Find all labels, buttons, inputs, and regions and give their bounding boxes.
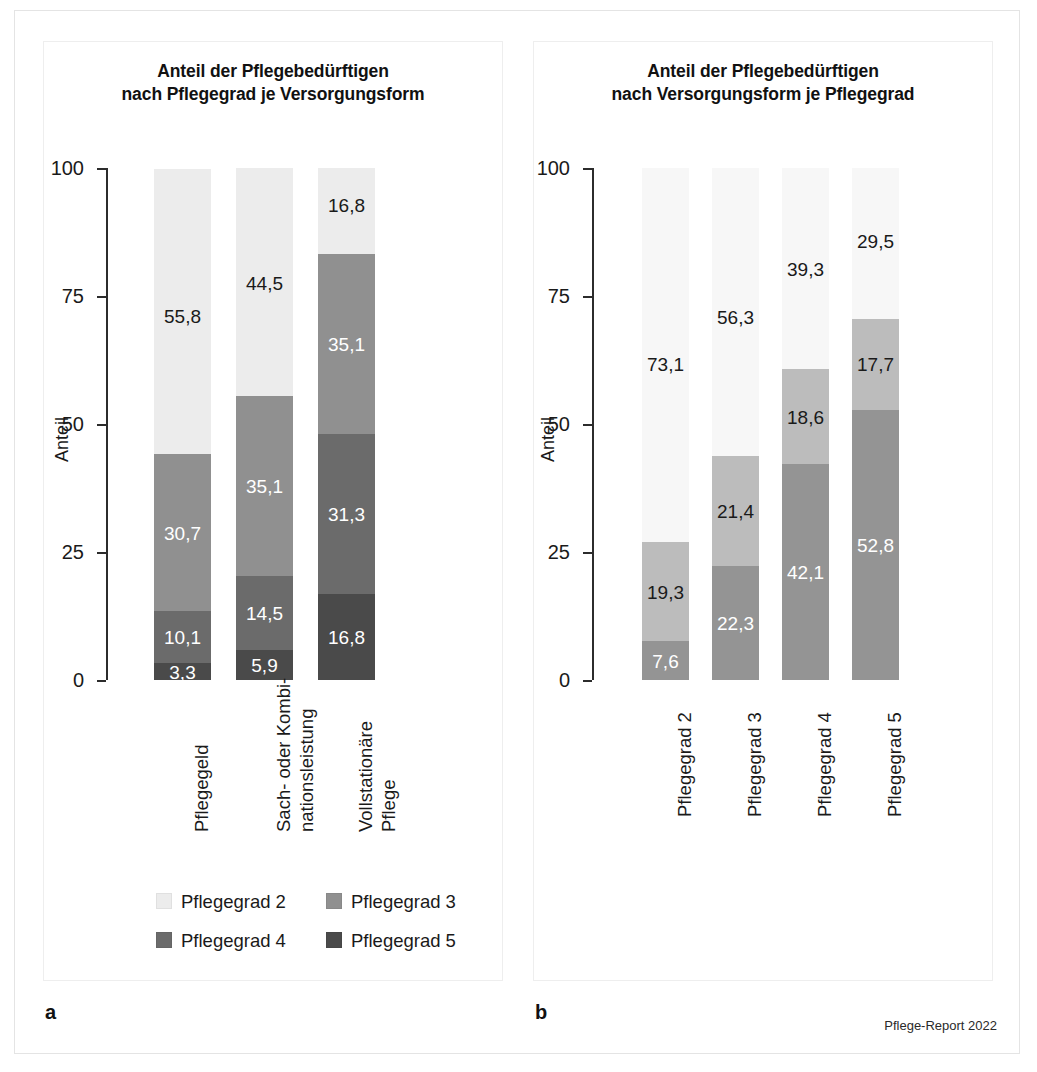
bar-value-label: 19,3 — [647, 582, 684, 601]
bar-value-label: 52,8 — [857, 535, 894, 554]
bar-segment[interactable]: 42,1 — [782, 464, 829, 680]
bar-segment[interactable]: 21,4 — [712, 456, 759, 566]
y-tick-label: 100 — [537, 157, 570, 180]
bar-value-label: 16,8 — [328, 196, 365, 215]
bar-value-label: 29,5 — [857, 232, 894, 251]
panel-b: Anteil der Pflegebedürftigen nach Versor… — [533, 41, 993, 981]
bar-value-label: 14,5 — [246, 603, 283, 622]
bar-segment[interactable]: 16,8 — [318, 594, 375, 680]
bar-segment[interactable]: 17,7 — [852, 319, 899, 410]
y-tick: 0 — [97, 680, 106, 682]
figure-credit: Pflege-Report 2022 — [884, 1018, 997, 1033]
legend-item[interactable]: Pflegegrad 2 — [156, 890, 326, 913]
bar-value-label: 7,6 — [652, 651, 678, 670]
bar-segment[interactable]: 31,3 — [318, 434, 375, 594]
bar-segment[interactable]: 44,5 — [236, 168, 293, 396]
panel-a-letter: a — [45, 1001, 56, 1024]
bar-segment[interactable]: 14,5 — [236, 576, 293, 650]
bar-value-label: 35,1 — [328, 334, 365, 353]
y-tick-label: 0 — [73, 669, 84, 692]
legend-swatch — [326, 932, 342, 948]
category-label: Pflegegeld — [191, 745, 214, 832]
bar-value-label: 16,8 — [328, 627, 365, 646]
bar-segment[interactable]: 3,3 — [154, 663, 211, 680]
category-label: Vollstationäre Pflege — [355, 721, 400, 832]
bar-value-label: 3,3 — [169, 662, 195, 681]
bar-segment[interactable]: 10,1 — [154, 611, 211, 663]
bar-segment[interactable]: 19,3 — [642, 542, 689, 641]
y-tick: 100 — [97, 168, 106, 170]
bar-segment[interactable]: 18,6 — [782, 369, 829, 464]
legend-label: Pflegegrad 4 — [181, 929, 286, 952]
bar-segment[interactable]: 39,3 — [782, 168, 829, 369]
bar-segment[interactable]: 35,1 — [236, 396, 293, 576]
y-tick: 75 — [583, 296, 592, 298]
y-tick: 50 — [97, 424, 106, 426]
legend-item[interactable]: Pflegegrad 5 — [326, 929, 496, 952]
y-tick-label: 25 — [548, 541, 570, 564]
y-tick: 50 — [583, 424, 592, 426]
y-tick: 100 — [583, 168, 592, 170]
legend-item[interactable]: Pflegegrad 4 — [156, 929, 326, 952]
y-tick-label: 100 — [51, 157, 84, 180]
bar-segment[interactable]: 52,8 — [852, 410, 899, 680]
bar-segment[interactable]: 73,1 — [642, 168, 689, 542]
bar-1[interactable]: 55,830,710,13,3 — [154, 169, 211, 680]
bar-2[interactable]: 44,535,114,55,9 — [236, 168, 293, 680]
legend-item[interactable]: Pflegegrad 3 — [326, 890, 496, 913]
panel-a-plot-area: 1007550250 55,830,710,13,344,535,114,55,… — [106, 157, 476, 682]
bar-value-label: 5,9 — [251, 655, 277, 674]
bar-value-label: 35,1 — [246, 476, 283, 495]
bar-segment[interactable]: 22,3 — [712, 566, 759, 680]
figure-frame: Anteil der Pflegebedürftigen nach Pflege… — [14, 10, 1020, 1054]
bar-2[interactable]: 56,321,422,3 — [712, 168, 759, 680]
bar-value-label: 42,1 — [787, 563, 824, 582]
y-tick-label: 75 — [62, 285, 84, 308]
legend-label: Pflegegrad 2 — [181, 890, 286, 913]
panel-b-plot-area: 1007550250 73,119,37,656,321,422,339,318… — [592, 157, 972, 682]
y-tick: 25 — [97, 552, 106, 554]
panel-b-title: Anteil der Pflegebedürftigen nach Versor… — [534, 60, 992, 106]
bar-3[interactable]: 39,318,642,1 — [782, 168, 829, 680]
bar-value-label: 18,6 — [787, 407, 824, 426]
category-label: Pflegegrad 2 — [674, 712, 697, 817]
bar-value-label: 31,3 — [328, 504, 365, 523]
bar-value-label: 56,3 — [717, 308, 754, 327]
legend-swatch — [156, 932, 172, 948]
category-label: Pflegegrad 3 — [744, 712, 767, 817]
bar-value-label: 39,3 — [787, 260, 824, 279]
bar-segment[interactable]: 35,1 — [318, 254, 375, 434]
legend-label: Pflegegrad 3 — [351, 890, 456, 913]
panel-a-legend: Pflegegrad 2Pflegegrad 3Pflegegrad 4Pfle… — [156, 890, 496, 968]
bar-segment[interactable]: 56,3 — [712, 168, 759, 456]
bar-value-label: 21,4 — [717, 502, 754, 521]
bar-segment[interactable]: 55,8 — [154, 169, 211, 455]
panel-a-title: Anteil der Pflegebedürftigen nach Pflege… — [44, 60, 502, 106]
category-label: Pflegegrad 5 — [884, 712, 907, 817]
bar-4[interactable]: 29,517,752,8 — [852, 168, 899, 680]
bar-value-label: 30,7 — [164, 523, 201, 542]
bar-segment[interactable]: 7,6 — [642, 641, 689, 680]
y-tick: 25 — [583, 552, 592, 554]
y-tick-label: 0 — [559, 669, 570, 692]
panel-b-axis-title: Anteil — [538, 417, 559, 462]
bar-value-label: 44,5 — [246, 274, 283, 293]
category-label: Sach- oder Kombi- nationsleistung — [273, 678, 318, 832]
legend-swatch — [326, 893, 342, 909]
panel-a-y-axis — [106, 168, 108, 680]
legend-label: Pflegegrad 5 — [351, 929, 456, 952]
bar-segment[interactable]: 5,9 — [236, 650, 293, 680]
bar-value-label: 22,3 — [717, 613, 754, 632]
bar-value-label: 17,7 — [857, 355, 894, 374]
bar-segment[interactable]: 16,8 — [318, 168, 375, 254]
bar-segment[interactable]: 29,5 — [852, 168, 899, 319]
legend-swatch — [156, 893, 172, 909]
panel-b-y-axis — [592, 168, 594, 680]
bar-segment[interactable]: 30,7 — [154, 454, 211, 611]
y-tick: 0 — [583, 680, 592, 682]
panel-a: Anteil der Pflegebedürftigen nach Pflege… — [43, 41, 503, 981]
bar-1[interactable]: 73,119,37,6 — [642, 168, 689, 680]
bar-3[interactable]: 16,835,131,316,8 — [318, 168, 375, 680]
panel-b-letter: b — [535, 1001, 547, 1024]
y-tick-label: 75 — [548, 285, 570, 308]
